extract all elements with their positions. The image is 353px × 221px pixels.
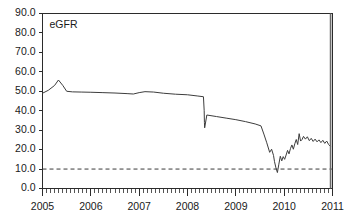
y-tick-label: 90.0 bbox=[15, 6, 36, 18]
x-axis-tick-labels: 2005200620072008200920102011 bbox=[31, 200, 344, 212]
plot-area-border bbox=[43, 14, 333, 189]
x-tick-label: 2010 bbox=[272, 200, 296, 212]
y-tick-label: 30.0 bbox=[15, 123, 36, 135]
chart-canvas: 0.010.020.030.040.050.060.070.080.090.0 … bbox=[0, 0, 353, 221]
y-tick-label: 80.0 bbox=[15, 26, 36, 38]
plot-frame bbox=[43, 14, 333, 189]
y-tick-label: 20.0 bbox=[15, 142, 36, 154]
x-tick-label: 2007 bbox=[127, 200, 151, 212]
x-tick-label: 2009 bbox=[224, 200, 248, 212]
x-tick-label: 2011 bbox=[321, 200, 344, 212]
series-annotation-label: eGFR bbox=[50, 18, 78, 30]
y-tick-label: 10.0 bbox=[15, 162, 36, 174]
y-tick-label: 70.0 bbox=[15, 45, 36, 57]
x-tick-label: 2008 bbox=[176, 200, 200, 212]
x-tick-label: 2006 bbox=[79, 200, 103, 212]
y-tick-label: 50.0 bbox=[15, 84, 36, 96]
y-tick-label: 0.0 bbox=[21, 181, 36, 193]
x-axis-major-ticks bbox=[43, 189, 333, 196]
y-axis-tick-labels: 0.010.020.030.040.050.060.070.080.090.0 bbox=[15, 6, 36, 193]
y-tick-label: 40.0 bbox=[15, 104, 36, 116]
y-axis-ticks bbox=[39, 14, 43, 189]
data-series bbox=[43, 80, 331, 173]
egfr-chart: 0.010.020.030.040.050.060.070.080.090.0 … bbox=[0, 0, 353, 221]
x-tick-label: 2005 bbox=[31, 200, 55, 212]
series-line-egfr bbox=[43, 80, 331, 173]
y-tick-label: 60.0 bbox=[15, 65, 36, 77]
